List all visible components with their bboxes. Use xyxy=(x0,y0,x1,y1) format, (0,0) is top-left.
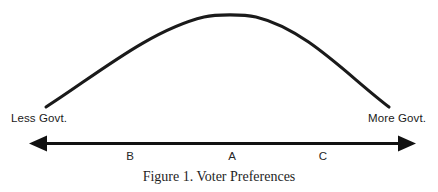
figure-voter-preferences: Less Govt. More Govt. B A C Figure 1. Vo… xyxy=(0,0,438,192)
voter-point-label-b: B xyxy=(126,150,134,163)
axis-arrowhead-right-icon xyxy=(398,136,416,152)
figure-caption: Figure 1. Voter Preferences xyxy=(0,168,438,185)
axis-arrowhead-left-icon xyxy=(29,136,47,152)
axis-label-more-govt: More Govt. xyxy=(368,112,426,125)
voter-point-label-a: A xyxy=(228,150,236,163)
voter-preference-plot xyxy=(0,0,438,192)
preference-curve xyxy=(46,15,389,107)
voter-point-label-c: C xyxy=(319,150,327,163)
axis-label-less-govt: Less Govt. xyxy=(11,112,67,125)
